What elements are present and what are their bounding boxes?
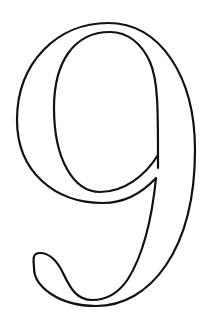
inner-counter — [54, 32, 158, 192]
numeral-canvas: 9 — [0, 0, 210, 328]
nine-outline-icon — [0, 0, 210, 328]
outer-contour — [17, 23, 195, 306]
